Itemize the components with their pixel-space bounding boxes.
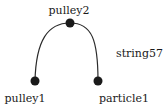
string57-label: string57 xyxy=(116,47,163,60)
pulley1-node xyxy=(31,77,40,86)
string57-curve xyxy=(35,23,98,81)
diagram-canvas: pulley2 pulley1 particle1 string57 xyxy=(0,0,166,108)
pulley1-label: pulley1 xyxy=(5,92,46,105)
pulley2-label: pulley2 xyxy=(49,4,90,17)
particle1-label: particle1 xyxy=(99,92,149,105)
pulley2-node xyxy=(66,19,75,28)
particle1-node xyxy=(94,77,103,86)
